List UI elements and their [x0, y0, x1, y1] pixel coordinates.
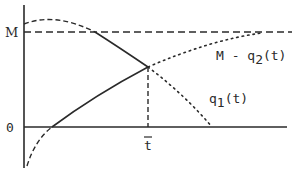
curve-m-minus-q2-solid — [95, 32, 148, 67]
label-q1: q1(t) — [209, 91, 248, 110]
diagram: M 0 t M - q2(t) q1(t) — [0, 0, 292, 174]
label-zero: 0 — [6, 120, 14, 135]
label-t-bar: t — [144, 138, 152, 153]
label-m: M — [5, 25, 18, 40]
label-m-minus-q2: M - q2(t) — [216, 48, 286, 67]
curve-m-minus-q2-dotted — [148, 67, 212, 127]
curve-q1-solid — [52, 67, 148, 127]
curve-q1-dashed — [27, 127, 52, 166]
curve-m-minus-q2-dashed — [24, 20, 95, 33]
